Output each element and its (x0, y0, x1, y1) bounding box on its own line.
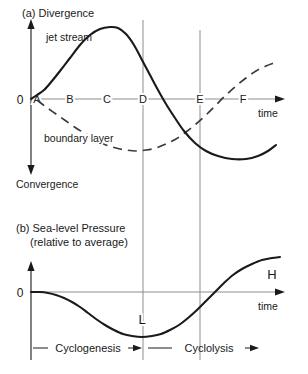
phase-cyclogenesis: Cyclogenesis (33, 342, 142, 354)
tick-label-E: E (196, 93, 203, 105)
tick-label-C: C (103, 93, 111, 105)
high-pressure-label: H (267, 267, 276, 282)
panel-b: (b) Sea-level Pressure (relative to aver… (16, 222, 285, 360)
cyclogenesis-arrow-icon (133, 345, 142, 351)
boundary-layer-label: boundary layer (44, 132, 114, 144)
convergence-label: Convergence (16, 178, 79, 190)
cyclolysis-arrow-icon (250, 345, 259, 351)
cyclone-life-cycle-figure: (a) Divergence A B C D E F 0 jet stream … (0, 0, 308, 374)
jet-stream-label: jet stream (45, 31, 92, 43)
panel-b-y-arrow-icon (27, 261, 34, 271)
panel-a-time-label: time (258, 107, 278, 119)
low-pressure-label: L (138, 312, 145, 327)
tick-label-B: B (66, 93, 73, 105)
convergence-arrow-icon (27, 165, 34, 175)
high-pressure-marker: H (267, 267, 276, 282)
cyclolysis-label: Cyclolysis (185, 342, 234, 354)
tick-label-D: D (139, 93, 147, 105)
low-pressure-marker: L (138, 312, 145, 327)
panel-b-title-line2: (relative to average) (30, 236, 128, 248)
panel-b-time-arrow-icon (275, 289, 285, 296)
panel-a-time-arrow-icon (275, 96, 285, 103)
tick-label-F: F (240, 93, 247, 105)
panel-b-time-label: time (258, 300, 278, 312)
sea-level-pressure-curve (31, 257, 280, 337)
panel-b-title-line1: (b) Sea-level Pressure (16, 222, 125, 234)
phase-cyclolysis: Cyclolysis (148, 342, 259, 354)
cyclogenesis-label: Cyclogenesis (55, 342, 121, 354)
panel-a-zero-label: 0 (17, 93, 24, 107)
divergence-arrow-icon (27, 19, 34, 29)
panel-a: (a) Divergence A B C D E F 0 jet stream … (16, 7, 285, 190)
panel-b-zero-label: 0 (17, 286, 24, 300)
panel-a-title: (a) Divergence (22, 7, 94, 19)
gridlines (143, 20, 200, 360)
